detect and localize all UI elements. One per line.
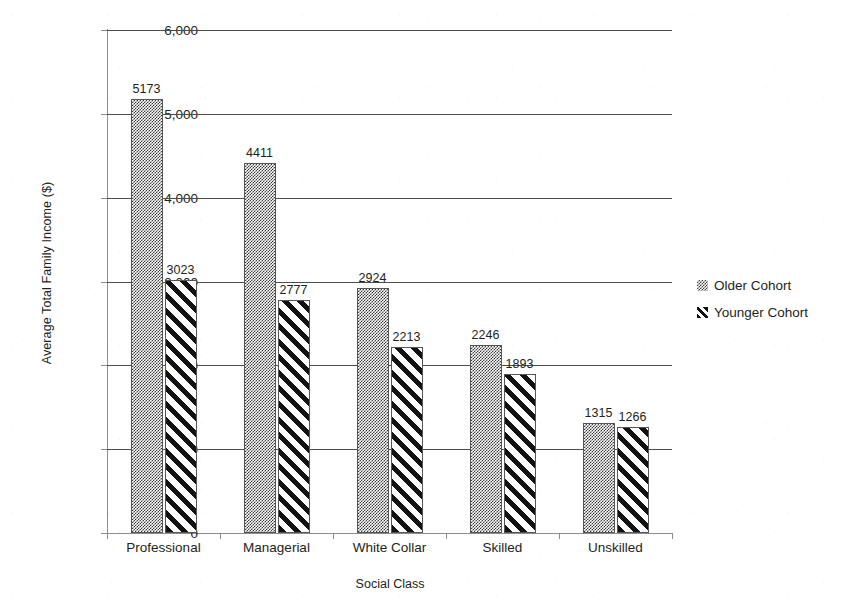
bar-value-label: 2246: [472, 328, 500, 342]
gridline: [107, 30, 672, 31]
y-axis-tick-mark: [101, 282, 107, 283]
legend-item[interactable]: Older Cohort: [697, 272, 842, 299]
bar-value-label: 1893: [506, 357, 534, 371]
bar-older-cohort: [470, 345, 502, 533]
y-axis-tick-mark: [101, 365, 107, 366]
y-axis-tick-mark: [101, 30, 107, 31]
x-axis-category-label: Professional: [107, 540, 220, 555]
legend-item[interactable]: Younger Cohort: [697, 299, 842, 326]
bar-value-label: 4411: [246, 146, 273, 160]
x-axis-tick-mark: [107, 533, 108, 539]
bar-chart: Average Total Family Income ($) 01,0002,…: [0, 0, 844, 604]
bar-older-cohort: [357, 288, 389, 533]
bar-younger-cohort: [617, 427, 649, 533]
chart-legend: Older CohortYounger Cohort: [697, 272, 842, 326]
x-axis-tick-mark: [672, 533, 673, 539]
x-axis-tick-mark: [220, 533, 221, 539]
bar-value-label: 2924: [359, 271, 387, 285]
bar-younger-cohort: [391, 347, 423, 533]
bar-value-label: 1266: [619, 410, 647, 424]
gridline: [107, 114, 672, 115]
x-axis-tick-mark: [333, 533, 334, 539]
x-axis-category-label: Unskilled: [559, 540, 672, 555]
bar-value-label: 5173: [133, 82, 161, 96]
x-axis-category-label: White Collar: [333, 540, 446, 555]
y-axis-title: Average Total Family Income ($): [40, 123, 54, 423]
bar-value-label: 1315: [585, 406, 613, 420]
x-axis-category-label: Managerial: [220, 540, 333, 555]
bar-younger-cohort: [504, 374, 536, 533]
x-axis-category-label: Skilled: [446, 540, 559, 555]
x-axis-tick-mark: [446, 533, 447, 539]
bar-older-cohort: [583, 423, 615, 533]
gridline: [107, 198, 672, 199]
bar-value-label: 2777: [280, 283, 308, 297]
bar-value-label: 2213: [393, 330, 421, 344]
y-axis-tick-mark: [101, 533, 107, 534]
legend-item-label: Older Cohort: [714, 278, 791, 293]
diagonal-stripe-swatch-icon: [697, 307, 708, 318]
plot-area: 5173302344112777292422132246189313151266: [107, 30, 672, 533]
bar-younger-cohort: [278, 300, 310, 533]
bar-value-label: 3023: [167, 263, 195, 277]
y-axis-tick-mark: [101, 198, 107, 199]
legend-item-label: Younger Cohort: [714, 305, 808, 320]
x-axis-tick-mark: [559, 533, 560, 539]
y-axis-tick-mark: [101, 449, 107, 450]
checkerboard-swatch-icon: [697, 280, 708, 291]
bar-older-cohort: [131, 99, 163, 533]
x-axis-title: Social Class: [107, 577, 673, 591]
bar-younger-cohort: [165, 280, 197, 533]
bar-older-cohort: [244, 163, 276, 533]
y-axis-tick-mark: [101, 114, 107, 115]
